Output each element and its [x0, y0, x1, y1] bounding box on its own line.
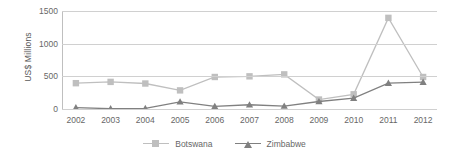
data-point-botswana-2002 — [73, 80, 79, 86]
legend-label: Botswana — [175, 139, 212, 149]
legend-entry-botswana[interactable]: Botswana — [143, 139, 212, 149]
y-tick-label: 0 — [28, 104, 58, 114]
gridline-1000 — [62, 44, 437, 45]
legend-swatch-zimbabwe — [235, 139, 261, 149]
y-axis-tick-labels: 050010001500 — [26, 11, 58, 109]
series-layer — [62, 11, 437, 109]
x-axis-tick-labels: 2002200320042005200620072008200920102011… — [62, 115, 437, 129]
y-tick-label: 1000 — [28, 39, 58, 49]
y-tick-label: 500 — [28, 71, 58, 81]
line-chart-figure: US$ Millions 050010001500 20022003200420… — [0, 0, 449, 155]
legend-entry-zimbabwe[interactable]: Zimbabwe — [235, 139, 306, 149]
data-point-botswana-2003 — [107, 79, 113, 85]
legend-marker-square-icon — [152, 140, 159, 147]
series-line-botswana — [76, 18, 423, 100]
legend-marker-triangle-icon — [244, 141, 252, 148]
plot-area — [62, 11, 437, 109]
gridline-0 — [62, 109, 437, 110]
data-point-botswana-2004 — [142, 80, 148, 86]
data-point-zimbabwe-2005 — [176, 98, 183, 104]
legend-label: Zimbabwe — [267, 139, 306, 149]
data-point-botswana-2011 — [385, 15, 391, 21]
gridline-500 — [62, 76, 437, 77]
gridline-1500 — [62, 11, 437, 12]
legend-swatch-botswana — [143, 139, 169, 149]
chart-legend: BotswanaZimbabwe — [0, 136, 449, 152]
x-tick-label: 2012 — [403, 115, 443, 125]
data-point-botswana-2005 — [177, 87, 183, 93]
y-tick-label: 1500 — [28, 6, 58, 16]
